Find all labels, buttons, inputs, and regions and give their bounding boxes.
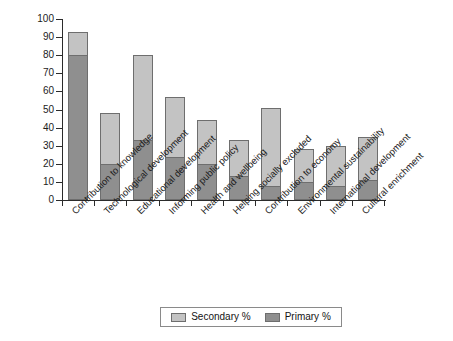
bar-segment-secondary (68, 32, 88, 56)
y-axis-tick-label-text: 70 (2, 68, 54, 78)
chart-legend: Secondary % Primary % (160, 307, 342, 327)
y-axis-tick-label: 90 (0, 32, 54, 42)
x-axis-tick (384, 201, 385, 206)
legend-swatch-primary-icon (265, 313, 280, 322)
legend-label-secondary: Secondary % (191, 312, 250, 322)
y-axis-tick-label: 30 (0, 141, 54, 151)
x-axis-tick (159, 201, 160, 206)
y-axis-tick-label-text: 90 (2, 32, 54, 42)
y-axis-tick-label: 50 (0, 105, 54, 115)
bar-segment-primary (68, 55, 88, 200)
y-axis-tick-label: 40 (0, 123, 54, 133)
y-axis-tick-label-text: 80 (2, 50, 54, 60)
y-axis-tick-label: 70 (0, 68, 54, 78)
x-axis-tick (126, 201, 127, 206)
legend-label-primary: Primary % (285, 312, 331, 322)
x-axis-tick (94, 201, 95, 206)
x-axis-tick (320, 201, 321, 206)
x-axis-tick (352, 201, 353, 206)
x-axis-tick (287, 201, 288, 206)
y-axis-tick-label-text: 40 (2, 123, 54, 133)
y-axis-tick-label: 0 (0, 195, 54, 205)
y-axis-tick-label-text: 60 (2, 86, 54, 96)
y-axis-tick-label-text: 100 (2, 14, 54, 24)
y-axis-tick-label-text: 20 (2, 159, 54, 169)
y-axis-tick-label-text: 10 (2, 177, 54, 187)
bar-stack (68, 32, 88, 200)
x-axis-tick (223, 201, 224, 206)
y-axis-tick-label-text: 0 (2, 195, 54, 205)
y-axis-tick-label: 10 (0, 177, 54, 187)
stacked-bar-chart: 0102030405060708090100 Contribution to k… (0, 0, 453, 341)
bar-segment-secondary (133, 55, 153, 140)
bar-segment-secondary (100, 113, 120, 164)
legend-item-secondary: Secondary % (171, 312, 250, 322)
y-axis-tick-label: 80 (0, 50, 54, 60)
legend-swatch-secondary-icon (171, 313, 186, 322)
x-axis-tick (255, 201, 256, 206)
y-axis-tick-label: 100 (0, 14, 54, 24)
x-axis-tick (62, 201, 63, 206)
legend-item-primary: Primary % (265, 312, 331, 322)
y-axis-tick-label-text: 50 (2, 105, 54, 115)
y-axis-tick-label: 20 (0, 159, 54, 169)
x-axis-tick (191, 201, 192, 206)
y-axis-tick-label: 60 (0, 86, 54, 96)
y-axis-tick-label-text: 30 (2, 141, 54, 151)
